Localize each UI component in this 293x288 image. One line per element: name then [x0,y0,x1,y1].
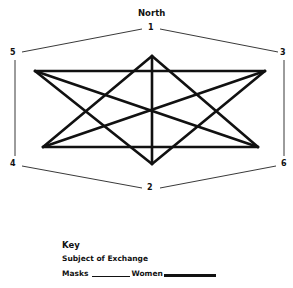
edge-5-1 [22,29,142,52]
edge-bottom-to-top-left [35,71,152,164]
node-label-1: 1 [148,23,154,33]
node-label-6: 6 [281,159,287,169]
diagram-title: North [138,8,165,18]
edge-diagonal-tr-bl [43,71,265,147]
node-label-4: 4 [10,159,16,169]
legend-thin-line-swatch [92,276,130,277]
outer-ring [15,29,284,188]
edge-1-3 [160,29,278,52]
edge-6-2 [160,166,276,188]
exchange-diagram [0,0,293,288]
legend-items: Masks Women [62,269,217,278]
legend-subtitle: Subject of Exchange [62,254,148,263]
legend-item-women-label: Women [131,269,162,278]
edge-diagonal-tl-br [35,71,258,147]
edge-top-to-bottom-right [152,56,258,147]
legend-item-masks-label: Masks [62,269,88,278]
inner-figure [35,56,265,164]
node-label-3: 3 [280,48,286,58]
legend-heading: Key [62,240,80,250]
edge-2-4 [22,166,142,188]
legend-thick-line-swatch [164,274,216,277]
node-label-2: 2 [147,183,153,193]
node-label-5: 5 [10,48,16,58]
edge-top-to-bottom-left [43,56,152,147]
